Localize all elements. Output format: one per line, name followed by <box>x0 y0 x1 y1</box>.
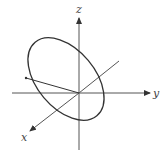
axes-diagram: z y x <box>0 0 167 160</box>
y-axis-label: y <box>152 87 160 100</box>
x-axis-label: x <box>21 131 28 144</box>
z-axis-label: z <box>75 3 82 16</box>
diagram-canvas: z y x <box>0 0 167 160</box>
x-axis <box>30 93 79 131</box>
radius-line <box>26 78 79 93</box>
radius-endpoint <box>25 77 27 79</box>
